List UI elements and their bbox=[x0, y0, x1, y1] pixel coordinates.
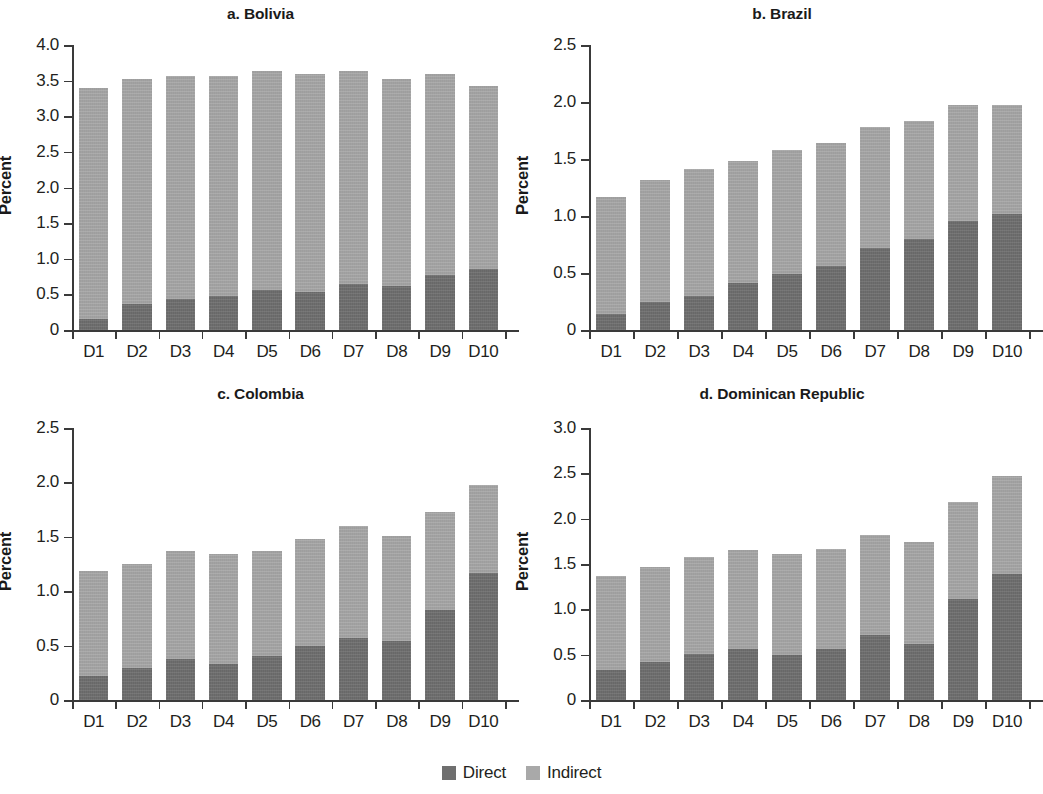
x-tick-mark bbox=[633, 701, 635, 709]
x-tick-mark bbox=[941, 701, 943, 709]
bar-segment-direct bbox=[295, 646, 324, 700]
bar-d9 bbox=[425, 512, 454, 700]
bar-segment-direct bbox=[122, 668, 151, 700]
x-tick-mark bbox=[159, 701, 161, 709]
y-tick-mark bbox=[581, 655, 589, 657]
x-tick-label-d3: D3 bbox=[170, 712, 191, 732]
bar-d9 bbox=[948, 105, 978, 330]
x-tick-mark bbox=[375, 331, 377, 339]
bar-d1 bbox=[596, 576, 626, 700]
x-tick-label-d7: D7 bbox=[865, 712, 886, 732]
bar-segment-direct bbox=[992, 214, 1022, 330]
x-tick-mark bbox=[897, 331, 899, 339]
bar-segment-direct bbox=[684, 296, 714, 330]
y-tick-label: 2.0 bbox=[36, 472, 59, 492]
y-tick-label: 1.0 bbox=[553, 599, 576, 619]
bar-segment-indirect bbox=[295, 74, 324, 292]
x-tick-label-d10: D10 bbox=[992, 712, 1022, 732]
x-tick-mark bbox=[985, 331, 987, 339]
x-tick-label-d9: D9 bbox=[430, 342, 451, 362]
bar-d5 bbox=[252, 551, 281, 700]
x-tick-label-d1: D1 bbox=[601, 712, 622, 732]
bar-segment-direct bbox=[596, 670, 626, 700]
y-tick-label: 2.0 bbox=[36, 178, 59, 198]
x-axis-line bbox=[589, 330, 1043, 332]
bar-segment-direct bbox=[252, 656, 281, 700]
bar-segment-direct bbox=[209, 664, 238, 700]
bar-segment-indirect bbox=[992, 105, 1022, 213]
y-tick-mark bbox=[581, 45, 589, 47]
bar-segment-indirect bbox=[992, 476, 1022, 574]
bar-d6 bbox=[295, 539, 324, 700]
y-tick-mark bbox=[581, 102, 589, 104]
bar-segment-direct bbox=[339, 284, 368, 330]
bar-segment-indirect bbox=[860, 127, 890, 248]
bar-segment-indirect bbox=[948, 502, 978, 599]
bar-d6 bbox=[295, 74, 324, 330]
bar-d10 bbox=[469, 86, 498, 330]
bar-segment-indirect bbox=[469, 86, 498, 270]
x-tick-mark bbox=[721, 331, 723, 339]
y-tick-label: 3.0 bbox=[553, 418, 576, 438]
bar-segment-indirect bbox=[860, 535, 890, 635]
x-tick-label-d5: D5 bbox=[256, 342, 277, 362]
bar-d10 bbox=[469, 485, 498, 700]
bar-segment-indirect bbox=[948, 105, 978, 220]
y-tick-label: 0.5 bbox=[36, 636, 59, 656]
bar-d2 bbox=[122, 564, 151, 700]
y-tick-label: 1.0 bbox=[36, 249, 59, 269]
x-tick-label-d9: D9 bbox=[430, 712, 451, 732]
bar-d1 bbox=[79, 571, 108, 700]
bar-d6 bbox=[816, 143, 846, 330]
bar-d9 bbox=[948, 502, 978, 700]
y-tick-mark bbox=[581, 273, 589, 275]
y-tick-mark bbox=[64, 223, 72, 225]
bar-d7 bbox=[339, 71, 368, 330]
bar-d4 bbox=[728, 161, 758, 330]
bar-segment-direct bbox=[382, 641, 411, 700]
x-tick-label-d3: D3 bbox=[689, 342, 710, 362]
y-tick-mark bbox=[581, 519, 589, 521]
bar-segment-indirect bbox=[79, 88, 108, 318]
bar-segment-indirect bbox=[816, 549, 846, 650]
x-tick-mark bbox=[985, 701, 987, 709]
bar-d6 bbox=[816, 549, 846, 700]
x-tick-mark bbox=[853, 701, 855, 709]
y-tick-mark bbox=[64, 259, 72, 261]
y-tick-mark bbox=[64, 45, 72, 47]
bar-segment-indirect bbox=[904, 121, 934, 238]
x-tick-mark bbox=[462, 331, 464, 339]
bar-segment-direct bbox=[166, 299, 195, 330]
y-tick-label: 2.0 bbox=[553, 92, 576, 112]
bar-segment-direct bbox=[425, 275, 454, 330]
x-tick-mark bbox=[721, 701, 723, 709]
bar-segment-indirect bbox=[684, 557, 714, 654]
x-tick-label-d3: D3 bbox=[689, 712, 710, 732]
bar-d3 bbox=[684, 169, 714, 330]
bar-segment-direct bbox=[166, 659, 195, 700]
x-tick-label-d8: D8 bbox=[909, 342, 930, 362]
x-tick-label-d7: D7 bbox=[343, 342, 364, 362]
bar-segment-direct bbox=[79, 319, 108, 330]
y-tick-mark bbox=[64, 591, 72, 593]
x-tick-label-d2: D2 bbox=[126, 712, 147, 732]
y-tick-label: 2.0 bbox=[553, 509, 576, 529]
y-axis-line bbox=[72, 45, 74, 331]
x-axis-line bbox=[589, 700, 1043, 702]
x-tick-label-d6: D6 bbox=[821, 712, 842, 732]
y-tick-label: 0.5 bbox=[553, 645, 576, 665]
x-tick-mark bbox=[245, 331, 247, 339]
y-tick-mark bbox=[581, 159, 589, 161]
y-tick-label: 1.5 bbox=[553, 149, 576, 169]
legend-label-indirect: Indirect bbox=[547, 763, 601, 783]
x-tick-mark bbox=[72, 331, 74, 339]
bar-segment-indirect bbox=[252, 71, 281, 290]
y-tick-mark bbox=[581, 700, 589, 702]
y-axis-line bbox=[589, 428, 591, 701]
bar-d10 bbox=[992, 105, 1022, 330]
y-tick-mark bbox=[64, 294, 72, 296]
plot-area-bolivia: 00.51.01.52.02.53.03.54.0PercentD1D2D3D4… bbox=[0, 0, 521, 380]
x-tick-mark bbox=[809, 701, 811, 709]
y-tick-mark bbox=[581, 216, 589, 218]
bar-segment-indirect bbox=[425, 74, 454, 275]
